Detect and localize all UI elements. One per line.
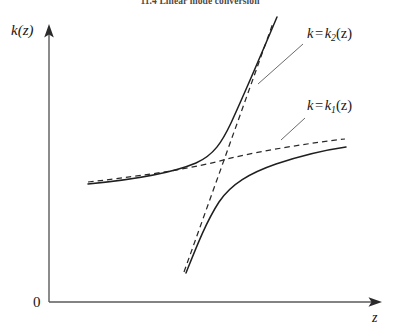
annotation-k2: k=k2(z) xyxy=(307,25,352,43)
avoided-crossing-plot xyxy=(0,0,400,336)
y-axis-label: k(z) xyxy=(11,22,34,39)
origin-label-text: 0 xyxy=(33,294,41,310)
k2-asymptote-dashed xyxy=(184,23,273,272)
annotation-k2-equals: = xyxy=(313,25,324,41)
k2-leader-line xyxy=(258,44,303,84)
upper-solid-branch xyxy=(88,17,277,184)
k1-asymptote-dashed xyxy=(88,139,345,182)
x-axis-label-text: z xyxy=(372,310,377,325)
annotation-k1-argument: (z) xyxy=(336,97,352,113)
x-axis-label: z xyxy=(372,310,377,326)
lower-solid-branch xyxy=(186,147,346,273)
y-axis-label-text: k(z) xyxy=(11,22,34,38)
k1-leader-line xyxy=(281,118,305,140)
annotation-k2-argument: (z) xyxy=(336,25,352,41)
origin-label: 0 xyxy=(33,294,41,311)
annotation-k1: k=k1(z) xyxy=(307,97,352,115)
annotation-k1-equals: = xyxy=(313,97,324,113)
figure-root: 11.4 Linear mode conversion k(z) z 0 k=k… xyxy=(0,0,400,336)
